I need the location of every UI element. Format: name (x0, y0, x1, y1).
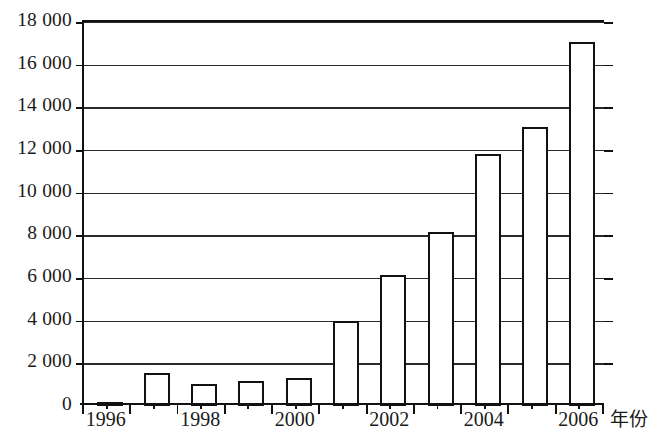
y-axis-tick (76, 363, 84, 365)
bar (522, 127, 548, 406)
y-axis-tick-right (604, 235, 613, 237)
y-axis-tick-right (604, 278, 613, 280)
x-axis-tick-label: 2002 (369, 409, 409, 429)
x-axis-tick (318, 403, 320, 414)
x-axis-minor-tick (531, 403, 533, 409)
x-axis-minor-tick (437, 403, 439, 409)
y-axis-tick-label: 16 000 (0, 53, 72, 73)
x-axis-tick (555, 403, 557, 414)
y-axis-labels: 02 0004 0006 0008 00010 00012 00014 0001… (0, 0, 78, 434)
x-axis-tick (271, 403, 273, 414)
bar (286, 378, 312, 406)
bar (475, 154, 501, 406)
x-axis-tick-label: 1996 (86, 409, 126, 429)
y-axis-tick-right (604, 363, 613, 365)
y-axis-tick-label: 8 000 (0, 224, 72, 244)
x-axis-tick (460, 403, 462, 414)
x-axis-tick-label: 2000 (275, 409, 315, 429)
y-axis-tick (76, 235, 84, 237)
x-axis-tick (224, 403, 226, 414)
bar (428, 232, 454, 406)
y-axis-tick (76, 150, 84, 152)
y-axis-tick (76, 65, 84, 67)
y-axis-tick-right (604, 193, 613, 195)
y-axis-tick (76, 321, 84, 323)
x-axis-tick (82, 403, 84, 414)
bar (333, 321, 359, 406)
y-axis-tick-right (604, 65, 613, 67)
x-axis-tick (507, 403, 509, 414)
x-axis-minor-tick (153, 403, 155, 409)
x-axis-tick-label: 1998 (180, 409, 220, 429)
bar (569, 42, 595, 406)
x-axis-tick (602, 403, 604, 414)
y-axis-tick-label: 2 000 (0, 352, 72, 372)
y-axis-tick-label: 10 000 (0, 181, 72, 201)
y-axis-tick-right (604, 150, 613, 152)
y-axis-tick-label: 18 000 (0, 10, 72, 30)
y-axis-tick (76, 278, 84, 280)
y-axis-tick (76, 193, 84, 195)
bar-series (84, 22, 604, 406)
y-axis-tick-right (604, 107, 613, 109)
x-axis-tick (366, 403, 368, 414)
y-axis-tick-right (604, 321, 613, 323)
x-axis-tick-label: 2006 (558, 409, 598, 429)
y-axis-tick-label: 4 000 (0, 309, 72, 329)
y-axis-tick-right (604, 22, 613, 24)
y-axis-tick (76, 22, 84, 24)
y-axis-tick-label: 12 000 (0, 138, 72, 158)
x-axis-minor-tick (247, 403, 249, 409)
bar (380, 275, 406, 406)
x-axis-title: 年份 (610, 410, 648, 429)
y-axis-tick-label: 6 000 (0, 266, 72, 286)
bar (144, 373, 170, 406)
x-axis-minor-tick (342, 403, 344, 409)
y-axis-tick-label: 14 000 (0, 96, 72, 116)
x-axis-tick (413, 403, 415, 414)
x-axis-tick (177, 403, 179, 414)
x-axis-tick-label: 2004 (464, 409, 504, 429)
y-axis-tick-label: 0 (0, 394, 72, 414)
bar-chart: 02 0004 0006 0008 00010 00012 00014 0001… (0, 0, 656, 434)
plot-area (82, 20, 604, 406)
y-axis-tick (76, 107, 84, 109)
x-axis-tick (129, 403, 131, 414)
